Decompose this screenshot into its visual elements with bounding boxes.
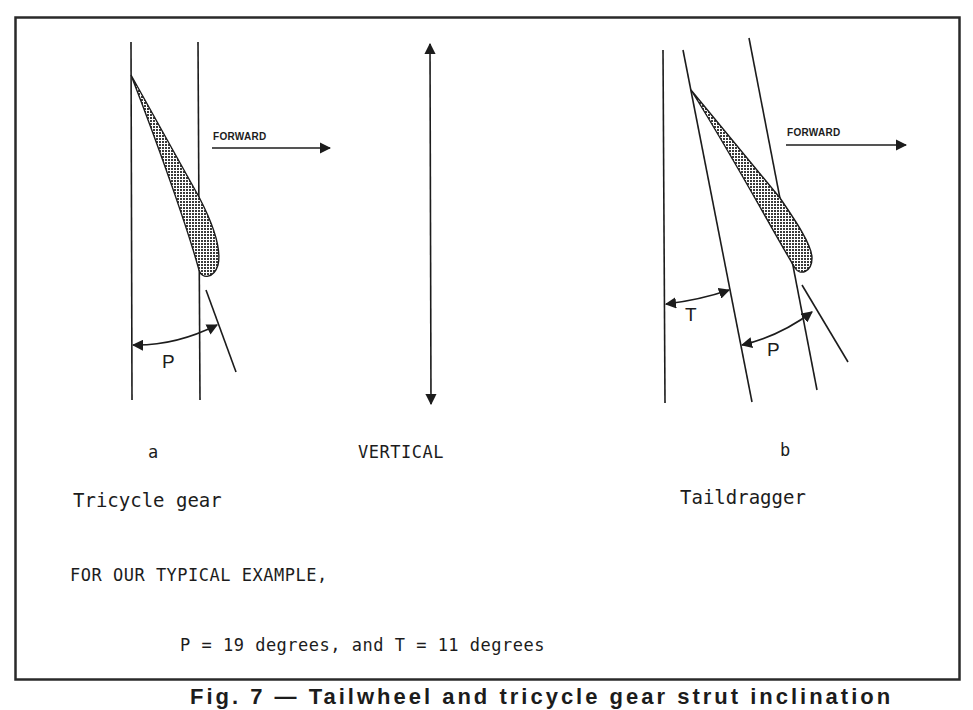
- diagram-a-tricycle: [131, 42, 330, 400]
- fuselage-tilt-line: [683, 50, 752, 402]
- tangent-line: [206, 290, 236, 372]
- vertical-label: VERTICAL: [358, 444, 444, 461]
- strut-shape: [131, 75, 219, 276]
- diagram-b-title: Taildragger: [680, 488, 806, 507]
- forward-label-a: FORWARD: [213, 132, 267, 142]
- angle-t-label: T: [685, 305, 697, 324]
- angle-p-label-a: P: [162, 352, 175, 371]
- vertical-double-arrow: [430, 44, 431, 404]
- vertical-reference-line: [131, 42, 132, 400]
- angle-p-arrow: [133, 325, 217, 345]
- diagram-b-taildragger: [663, 38, 906, 403]
- angle-p-label-b: P: [767, 340, 780, 359]
- angle-t-arrow: [666, 290, 729, 304]
- diagram-a-letter: a: [148, 444, 159, 461]
- vertical-reference-line: [663, 50, 665, 403]
- diagram-a-title: Tricycle gear: [73, 491, 222, 510]
- example-values: P = 19 degrees, and T = 11 degrees: [180, 637, 545, 654]
- diagram-b-letter: b: [780, 442, 791, 459]
- example-intro: FOR OUR TYPICAL EXAMPLE,: [70, 567, 328, 584]
- figure-caption-cropped: Fig. 7 — Tailwheel and tricycle gear str…: [190, 684, 893, 710]
- forward-label-b: FORWARD: [787, 128, 841, 138]
